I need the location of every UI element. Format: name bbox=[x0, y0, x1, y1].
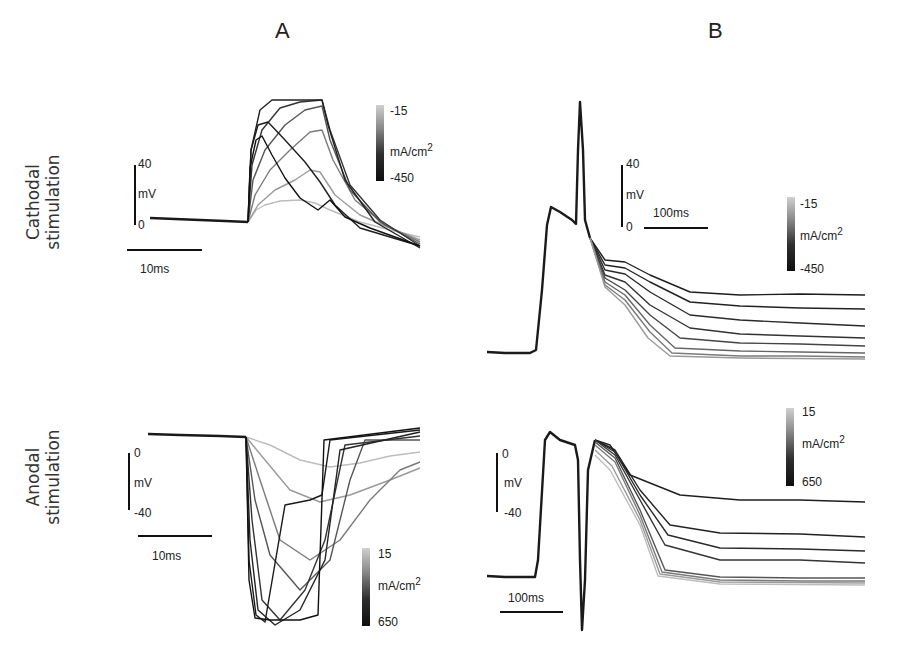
a-anodal-cbar-top: 15 bbox=[378, 547, 391, 561]
a-anodal-cbar-unit-text: mA/cm bbox=[378, 579, 415, 593]
colorbar-a-anodal bbox=[362, 548, 370, 626]
colorbar-a-cathodal bbox=[376, 105, 384, 181]
b-cathodal-cbar-unit: mA/cm2 bbox=[800, 226, 843, 243]
a-anodal-vtop: 0 bbox=[134, 446, 141, 460]
a-cathodal-cbar-bottom: -450 bbox=[390, 171, 414, 185]
b-anodal-vunit: mV bbox=[504, 476, 522, 490]
a-cathodal-cbar-unit-text: mA/cm bbox=[390, 145, 427, 159]
colorbar-b-anodal bbox=[786, 408, 794, 486]
b-anodal-vtop: 0 bbox=[502, 447, 509, 461]
panel-a-cathodal-scalebars bbox=[127, 165, 202, 250]
a-cathodal-cbar-top: -15 bbox=[390, 104, 407, 118]
b-cathodal-cbar-unit-text: mA/cm bbox=[800, 229, 837, 243]
a-cathodal-cbar-unit-sup: 2 bbox=[427, 142, 433, 153]
b-anodal-time: 100ms bbox=[508, 591, 544, 605]
a-anodal-time: 10ms bbox=[152, 549, 181, 563]
a-cathodal-vbottom: 0 bbox=[138, 218, 145, 232]
b-cathodal-cbar-unit-sup: 2 bbox=[837, 226, 843, 237]
a-anodal-vunit: mV bbox=[134, 476, 152, 490]
b-cathodal-time: 100ms bbox=[653, 206, 689, 220]
panel-a-anodal-scalebars bbox=[129, 453, 212, 536]
a-anodal-cbar-unit: mA/cm2 bbox=[378, 576, 421, 593]
b-anodal-cbar-unit: mA/cm2 bbox=[802, 434, 845, 451]
a-anodal-vbottom: -40 bbox=[134, 506, 151, 520]
a-anodal-cbar-unit-sup: 2 bbox=[415, 576, 421, 587]
a-cathodal-time: 10ms bbox=[140, 262, 169, 276]
a-cathodal-vtop: 40 bbox=[138, 157, 151, 171]
b-anodal-cbar-unit-text: mA/cm bbox=[802, 437, 839, 451]
b-anodal-vbottom: -40 bbox=[504, 506, 521, 520]
panel-a-anodal-traces bbox=[148, 428, 420, 625]
b-anodal-cbar-unit-sup: 2 bbox=[839, 434, 845, 445]
a-anodal-cbar-bottom: 650 bbox=[378, 615, 398, 629]
figure-canvas bbox=[0, 0, 899, 662]
b-cathodal-vbottom: 0 bbox=[626, 220, 633, 234]
b-cathodal-vtop: 40 bbox=[626, 157, 639, 171]
b-cathodal-cbar-bottom: -450 bbox=[800, 262, 824, 276]
b-cathodal-vunit: mV bbox=[626, 188, 644, 202]
b-anodal-cbar-top: 15 bbox=[802, 405, 815, 419]
a-cathodal-cbar-unit: mA/cm2 bbox=[390, 142, 433, 159]
a-cathodal-vunit: mV bbox=[138, 187, 156, 201]
b-cathodal-cbar-top: -15 bbox=[800, 197, 817, 211]
colorbar-b-cathodal bbox=[787, 197, 795, 271]
b-anodal-cbar-bottom: 650 bbox=[802, 475, 822, 489]
